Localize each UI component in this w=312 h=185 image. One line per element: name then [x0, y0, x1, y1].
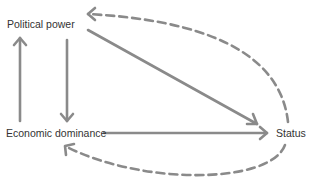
edge-economic-to-status	[104, 127, 267, 139]
edge-political-to-status	[88, 30, 257, 124]
edge-economic-to-political	[14, 38, 26, 121]
causal-diagram: Political power Economic dominance Statu…	[0, 0, 312, 185]
node-economic-dominance: Economic dominance	[6, 127, 106, 139]
edge-political-to-economic	[61, 40, 73, 121]
edge-status-to-economic-dashed	[65, 144, 285, 175]
edge-status-to-political-dashed	[88, 8, 288, 122]
node-political-power: Political power	[7, 18, 75, 30]
node-status: Status	[276, 127, 306, 139]
